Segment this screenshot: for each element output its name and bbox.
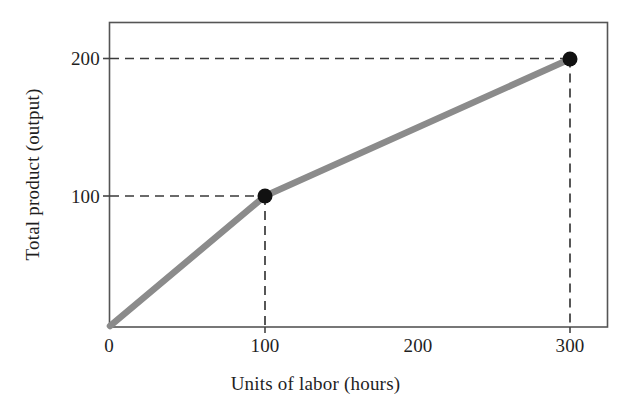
total-product-chart: 200 100 0 100 200 300 Units of labor (ho… (0, 0, 631, 415)
x-axis-tick-label-200: 200 (403, 336, 432, 355)
data-point-100-100 (258, 189, 273, 204)
plot-frame (110, 23, 608, 328)
data-point-300-200 (563, 52, 578, 67)
x-axis-title: Units of labor (hours) (0, 374, 631, 393)
x-axis-tick-label-300: 300 (555, 336, 584, 355)
x-axis-tick-label-100: 100 (250, 336, 279, 355)
y-axis-tick-label-100: 100 (71, 187, 100, 206)
y-axis-title: Total product (output) (18, 22, 48, 327)
x-axis-tick-label-0: 0 (104, 336, 114, 355)
y-axis-tick-label-200: 200 (71, 49, 100, 68)
